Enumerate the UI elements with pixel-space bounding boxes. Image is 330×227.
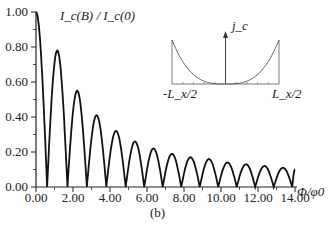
x-tick-label: 8.00 — [173, 190, 196, 205]
inset-y-label: j_c — [230, 18, 248, 33]
x-tick-label: 0.00 — [25, 190, 48, 205]
y-tick-label: 0.80 — [5, 39, 28, 54]
x-tick-label: 12.00 — [243, 190, 272, 205]
x-tick-label: 4.00 — [99, 190, 122, 205]
chart: 0.000.200.400.600.801.000.002.004.006.00… — [0, 0, 330, 227]
caption: (b) — [150, 205, 165, 220]
x-tick-label: 6.00 — [136, 190, 159, 205]
y-tick-label: 0.60 — [5, 74, 28, 89]
y-axis-label: I_c(B) / I_c(0) — [59, 8, 135, 23]
inset-chart — [172, 31, 279, 84]
x-axis-label: Φ/φ0 — [297, 184, 325, 199]
y-tick-label: 0.20 — [5, 144, 28, 159]
inset-x-right: L_x/2 — [271, 86, 302, 101]
y-tick-label: 1.00 — [5, 4, 28, 19]
inset-x-left: -L_x/2 — [163, 86, 197, 101]
y-tick-label: 0.40 — [5, 109, 28, 124]
x-tick-label: 2.00 — [62, 190, 85, 205]
x-tick-label: 10.00 — [206, 190, 235, 205]
